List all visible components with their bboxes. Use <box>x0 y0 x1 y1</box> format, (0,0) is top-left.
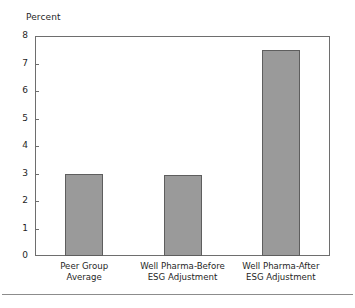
bar <box>164 175 202 256</box>
y-axis-tick-label: 2 <box>22 195 28 206</box>
x-axis-category-label-line1: Well Pharma-Before <box>140 261 225 271</box>
y-axis-tick-label: 1 <box>22 223 28 234</box>
bar <box>262 50 300 256</box>
y-axis-tick-label: 3 <box>22 168 28 179</box>
y-axis-tick-label: 6 <box>22 85 28 96</box>
bar-chart-figure: Percent 012345678 Peer GroupAverageWell … <box>0 0 355 308</box>
y-axis-tick-mark <box>35 64 39 65</box>
footer-divider <box>2 294 353 295</box>
bar <box>65 174 103 257</box>
x-axis-category-label-line2: ESG Adjustment <box>133 272 231 283</box>
y-axis-tick-mark <box>35 91 39 92</box>
x-axis-category-label-line2: Average <box>35 272 133 283</box>
y-axis-tick-mark <box>35 146 39 147</box>
x-axis-category-label: Peer GroupAverage <box>35 261 133 283</box>
y-axis-tick-mark <box>35 229 39 230</box>
x-axis-category-label: Well Pharma-AfterESG Adjustment <box>232 261 330 283</box>
x-axis-category-label-line1: Well Pharma-After <box>242 261 319 271</box>
y-axis-tick-label: 4 <box>22 140 28 151</box>
x-axis-category-label-line1: Peer Group <box>60 261 108 271</box>
x-axis-category-label: Well Pharma-BeforeESG Adjustment <box>133 261 231 283</box>
y-axis-tick-label: 7 <box>22 58 28 69</box>
y-axis-tick-mark <box>35 201 39 202</box>
y-axis-tick-label: 0 <box>22 250 28 261</box>
y-axis-unit-label: Percent <box>26 12 61 23</box>
y-axis-tick-label: 8 <box>22 30 28 41</box>
y-axis-tick-mark <box>35 119 39 120</box>
y-axis-tick-mark <box>35 174 39 175</box>
y-axis-tick-label: 5 <box>22 113 28 124</box>
x-axis-category-label-line2: ESG Adjustment <box>232 272 330 283</box>
